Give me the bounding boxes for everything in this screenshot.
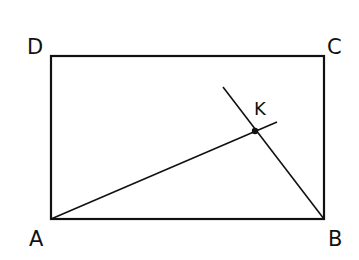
label-c: C: [327, 35, 342, 59]
label-b: B: [328, 227, 342, 251]
line-b-k: [223, 87, 324, 219]
geometry-figure: D C A B K: [0, 0, 359, 260]
line-a-k: [51, 122, 277, 219]
label-a: A: [29, 227, 44, 251]
label-k: K: [254, 98, 267, 119]
label-d: D: [27, 35, 43, 59]
point-k-dot: [252, 128, 258, 134]
rectangle-abcd: [51, 56, 324, 219]
